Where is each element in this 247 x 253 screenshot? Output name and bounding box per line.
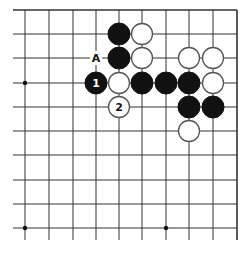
move-number: 2 <box>115 101 123 114</box>
black-stone <box>155 72 177 94</box>
board-markers: A <box>90 51 102 65</box>
white-stone: 2 <box>109 97 130 118</box>
black-stone <box>108 47 130 69</box>
white-stone <box>179 48 200 69</box>
white-stone <box>179 121 200 142</box>
black-stone <box>108 23 130 45</box>
star-point <box>23 81 27 85</box>
go-board: A 12 <box>0 0 247 253</box>
white-stone <box>109 73 130 94</box>
white-stone <box>132 48 153 69</box>
point-label-a: A <box>92 52 101 65</box>
black-stone <box>202 96 224 118</box>
white-stone <box>203 73 224 94</box>
star-point <box>23 226 27 230</box>
black-stone: 1 <box>85 72 107 94</box>
star-point <box>164 226 168 230</box>
move-number: 1 <box>92 77 100 90</box>
black-stone <box>178 72 200 94</box>
black-stone <box>178 96 200 118</box>
white-stone <box>132 24 153 45</box>
white-stone <box>203 48 224 69</box>
black-stone <box>131 72 153 94</box>
stones-layer: 12 <box>85 23 224 142</box>
board-grid <box>13 10 237 240</box>
